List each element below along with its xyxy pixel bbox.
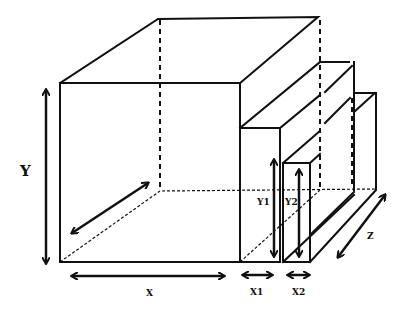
label-x: X	[146, 288, 153, 298]
label-y2: Y2	[284, 197, 298, 207]
box-dimension-diagram: Y X X1 X2 Y1 Y2 Z	[0, 0, 409, 319]
label-y1: Y1	[256, 197, 270, 207]
depth-inner-arrow	[72, 183, 148, 233]
label-y: Y	[19, 162, 31, 180]
main-box	[60, 17, 375, 262]
label-z: Z	[367, 231, 374, 241]
label-x2: X2	[292, 287, 305, 297]
label-x1: X1	[250, 287, 263, 297]
